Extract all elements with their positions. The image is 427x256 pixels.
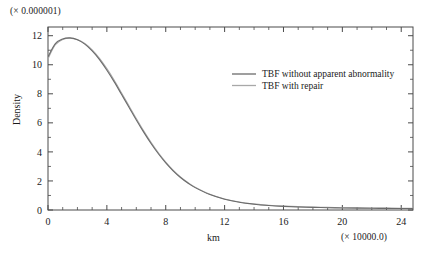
x-tick-label: 4 bbox=[104, 216, 109, 227]
y-tick-label: 6 bbox=[37, 117, 42, 128]
x-tick-label: 20 bbox=[337, 216, 347, 227]
legend-label: TBF with repair bbox=[262, 81, 324, 91]
x-tick-label: 24 bbox=[396, 216, 406, 227]
x-tick-label: 12 bbox=[220, 216, 230, 227]
plot-frame bbox=[48, 27, 413, 210]
series-line bbox=[48, 38, 413, 209]
y-tick-label: 2 bbox=[37, 176, 42, 187]
y-tick-label: 0 bbox=[37, 205, 42, 216]
y-tick-label: 10 bbox=[32, 59, 42, 70]
y-tick-label: 8 bbox=[37, 88, 42, 99]
plot-area: 04812162024024681012TBF without apparent… bbox=[0, 0, 427, 256]
x-tick-label: 16 bbox=[278, 216, 288, 227]
legend-label: TBF without apparent abnormality bbox=[262, 69, 394, 79]
x-tick-label: 8 bbox=[163, 216, 168, 227]
x-tick-label: 0 bbox=[46, 216, 51, 227]
y-tick-label: 4 bbox=[37, 147, 42, 158]
density-chart-figure: (× 0.000001) Density km (× 10000.0) 0481… bbox=[0, 0, 427, 256]
y-tick-label: 12 bbox=[32, 30, 42, 41]
